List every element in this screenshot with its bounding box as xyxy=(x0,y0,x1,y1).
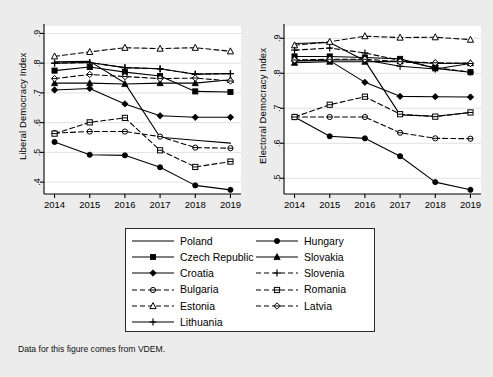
svg-text:2015: 2015 xyxy=(79,199,100,210)
legend-item-estonia[interactable]: Estonia xyxy=(130,298,252,314)
svg-text:.8: .8 xyxy=(32,59,42,67)
svg-text:2014: 2014 xyxy=(284,199,305,210)
legend-key-bulgaria xyxy=(130,283,176,297)
legend-key-slovenia xyxy=(254,266,300,280)
legend-item-slovakia[interactable]: Slovakia xyxy=(254,249,372,265)
plot-area-left: .4.5.6.7.8.9201420152016201720182019 xyxy=(8,18,246,218)
legend-key-croatia xyxy=(130,266,176,280)
legend-item-bulgaria[interactable]: Bulgaria xyxy=(130,282,252,298)
legend-label-estonia: Estonia xyxy=(176,301,215,312)
legend-item-latvia[interactable]: Latvia xyxy=(254,298,372,314)
panel-liberal-democracy: Liberal Democracy Index .4.5.6.7.8.92014… xyxy=(8,18,246,218)
legend-key-lithuania xyxy=(130,315,176,329)
legend-item-czech_republic[interactable]: Czech Republic xyxy=(130,249,252,265)
legend-label-latvia: Latvia xyxy=(300,301,332,312)
figure-canvas: Liberal Democracy Index .4.5.6.7.8.92014… xyxy=(0,0,493,377)
panel-electoral-democracy: Electoral Democracy Index .5.6.7.8.92014… xyxy=(248,18,486,218)
legend-label-romania: Romania xyxy=(300,284,346,295)
legend-label-bulgaria: Bulgaria xyxy=(176,284,219,295)
legend-label-czech_republic: Czech Republic xyxy=(176,252,254,263)
svg-text:.9: .9 xyxy=(32,30,42,38)
svg-text:2018: 2018 xyxy=(425,199,446,210)
svg-text:.6: .6 xyxy=(32,119,42,127)
legend-column-left: PolandCzech RepublicCroatiaBulgariaEston… xyxy=(130,233,252,330)
svg-text:.8: .8 xyxy=(272,69,282,77)
svg-text:2014: 2014 xyxy=(44,199,65,210)
legend-item-lithuania[interactable]: Lithuania xyxy=(130,314,252,330)
svg-text:.6: .6 xyxy=(272,139,282,147)
svg-text:.7: .7 xyxy=(272,104,282,112)
legend-key-poland xyxy=(130,234,176,248)
svg-text:2019: 2019 xyxy=(460,199,481,210)
legend-item-hungary[interactable]: Hungary xyxy=(254,233,372,249)
svg-text:.5: .5 xyxy=(32,149,42,157)
legend: PolandCzech RepublicCroatiaBulgariaEston… xyxy=(125,228,375,332)
legend-label-poland: Poland xyxy=(176,236,213,247)
svg-text:.7: .7 xyxy=(32,89,42,97)
svg-text:2017: 2017 xyxy=(150,199,171,210)
figure-caption: Data for this figure comes from VDEM. xyxy=(18,344,165,354)
svg-text:2019: 2019 xyxy=(220,199,241,210)
svg-text:2018: 2018 xyxy=(185,199,206,210)
svg-text:2016: 2016 xyxy=(354,199,375,210)
legend-label-croatia: Croatia xyxy=(176,268,214,279)
svg-text:.5: .5 xyxy=(272,174,282,182)
plot-area-right: .5.6.7.8.9201420152016201720182019 xyxy=(248,18,486,218)
svg-text:2015: 2015 xyxy=(319,199,340,210)
legend-label-slovenia: Slovenia xyxy=(300,268,344,279)
legend-key-slovakia xyxy=(254,250,300,264)
svg-text:.4: .4 xyxy=(32,178,42,186)
legend-key-romania xyxy=(254,283,300,297)
legend-item-croatia[interactable]: Croatia xyxy=(130,265,252,281)
legend-item-poland[interactable]: Poland xyxy=(130,233,252,249)
legend-label-slovakia: Slovakia xyxy=(300,252,344,263)
legend-key-estonia xyxy=(130,299,176,313)
legend-item-slovenia[interactable]: Slovenia xyxy=(254,265,372,281)
legend-key-czech_republic xyxy=(130,250,176,264)
legend-label-lithuania: Lithuania xyxy=(176,317,223,328)
legend-label-hungary: Hungary xyxy=(300,236,344,247)
legend-item-romania[interactable]: Romania xyxy=(254,282,372,298)
svg-text:.9: .9 xyxy=(272,34,282,42)
svg-text:2016: 2016 xyxy=(114,199,135,210)
legend-key-latvia xyxy=(254,299,300,313)
legend-column-right: HungarySlovakiaSloveniaRomaniaLatvia xyxy=(254,233,372,314)
legend-key-hungary xyxy=(254,234,300,248)
svg-text:2017: 2017 xyxy=(390,199,411,210)
